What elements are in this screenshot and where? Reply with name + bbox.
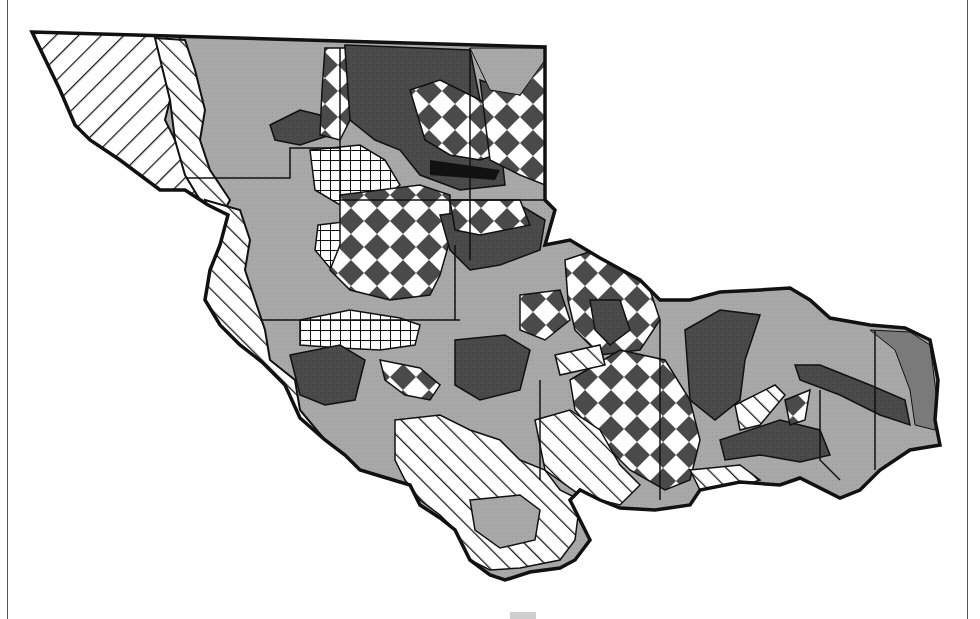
bottom-mark <box>510 612 536 619</box>
region-south-central-dark <box>455 335 530 400</box>
region-north-diamonds-west <box>320 48 350 140</box>
region-southwest-dark <box>290 345 365 405</box>
region-central-diamonds <box>330 185 450 300</box>
thematic-map <box>0 0 980 619</box>
